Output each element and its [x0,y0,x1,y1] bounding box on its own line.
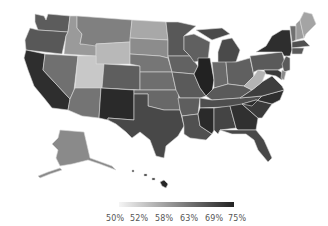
legend-gradient-bar [119,202,234,207]
state-alaska[interactable]: Alaska [52,130,116,170]
state-hawaii[interactable]: Hawaii [160,180,168,188]
state-michigan[interactable]: Michigan [218,38,240,64]
legend-tick: 52% [130,214,148,223]
state-massachusetts[interactable]: Massachusetts [292,40,310,48]
legend-tick: 75% [228,214,246,223]
state-new-york[interactable]: New York [256,30,292,56]
state-hawaii-islands-3[interactable]: Hawaii [152,178,155,180]
state-washington[interactable]: Washington [35,14,70,32]
state-colorado[interactable]: Colorado [102,64,140,90]
state-new-mexico[interactable]: New Mexico [99,88,134,120]
state-indiana[interactable]: Indiana [212,62,228,88]
map-legend: 50% 52% 58% 63% 69% 75% [0,202,328,226]
state-oregon[interactable]: Oregon [25,28,68,54]
state-north-dakota[interactable]: North Dakota [130,20,168,40]
state-arizona[interactable]: Arizona [68,88,101,118]
us-choropleth-map: Washington Oregon California Idaho Nevad… [0,0,328,190]
legend-tick: 58% [155,214,173,223]
state-wyoming[interactable]: Wyoming [96,42,130,64]
state-montana[interactable]: Montana [77,16,132,46]
state-connecticut[interactable]: Connecticut [292,48,304,54]
state-florida[interactable]: Florida [220,130,272,162]
state-kansas[interactable]: Kansas [140,72,176,90]
legend-tick-labels: 50% 52% 58% 63% 69% 75% [0,214,328,226]
state-delaware[interactable]: Delaware [281,70,286,80]
state-hawaii-islands[interactable]: Hawaii [132,170,134,172]
legend-tick: 63% [180,214,198,223]
legend-tick: 50% [106,214,124,223]
state-hawaii-islands-2[interactable]: Hawaii [144,174,147,176]
state-arkansas[interactable]: Arkansas [178,98,200,116]
legend-tick: 69% [205,214,223,223]
state-alaska-chain[interactable]: Alaska [38,168,62,178]
